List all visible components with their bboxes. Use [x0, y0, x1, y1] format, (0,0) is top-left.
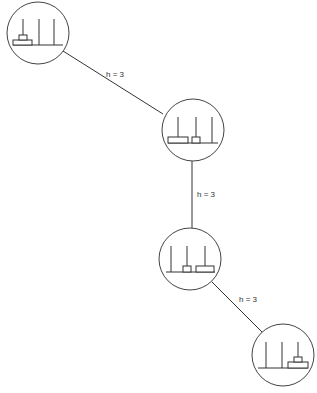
node-circle: [252, 324, 314, 386]
node-n2: [162, 99, 224, 161]
node-circle: [159, 228, 221, 290]
edge-n1-n2: [63, 51, 163, 114]
node-n1: [7, 2, 69, 64]
edge-label-n3-n4: h = 3: [239, 295, 258, 304]
node-n4: [252, 324, 314, 386]
edge-label-n1-n2: h = 3: [106, 70, 125, 79]
edges: [63, 51, 262, 332]
search-path-diagram: h = 3 h = 3 h = 3: [0, 0, 317, 393]
disk-large: [196, 266, 214, 272]
edge-n3-n4: [212, 282, 262, 332]
node-circle: [7, 2, 69, 64]
disk-large: [13, 40, 32, 45]
node-circle: [162, 99, 224, 161]
disk-large: [288, 362, 308, 368]
disk-small: [192, 137, 200, 143]
edge-label-n2-n3: h = 3: [197, 190, 216, 199]
disk-small: [183, 266, 191, 272]
disk-large: [168, 137, 188, 143]
disk-small: [19, 35, 27, 40]
disk-small: [294, 357, 302, 362]
node-n3: [159, 228, 221, 290]
